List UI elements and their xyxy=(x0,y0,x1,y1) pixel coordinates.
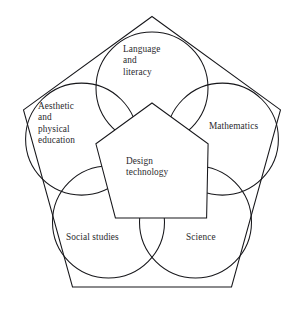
label-science: Science xyxy=(186,232,246,243)
label-language-and-literacy: Language and literacy xyxy=(123,44,193,78)
label-aesthetic-and-physical-education: Aesthetic and physical education xyxy=(38,101,108,147)
label-mathematics: Mathematics xyxy=(209,121,289,132)
label-social-studies: Social studies xyxy=(66,232,146,243)
label-design-technology: Design technology xyxy=(126,156,196,179)
curriculum-diagram: Language and literacy Aesthetic and phys… xyxy=(0,0,306,316)
